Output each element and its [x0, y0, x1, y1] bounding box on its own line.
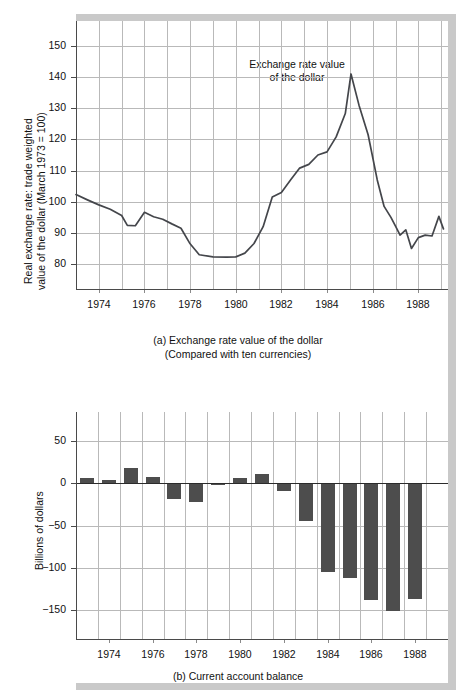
- bar-1982: [277, 483, 291, 491]
- y-tick-label: −150: [32, 604, 66, 615]
- bar-1986: [364, 483, 378, 600]
- y-tick-label: 0: [32, 477, 66, 488]
- bar-1975: [124, 468, 138, 483]
- bar-1977: [167, 483, 181, 498]
- gridline-vertical: [404, 412, 405, 639]
- gridline-vertical: [207, 412, 208, 639]
- gridline-vertical: [142, 412, 143, 639]
- x-axis-spine: [76, 639, 448, 640]
- gridline-vertical: [251, 412, 252, 639]
- y-axis-spine: [76, 412, 77, 639]
- gridline-vertical: [360, 412, 361, 639]
- panel-current-account-balance: Billions of dollars 500−50−100−150197419…: [0, 0, 476, 700]
- bar-1987: [386, 483, 400, 611]
- gridline-vertical: [317, 412, 318, 639]
- gridline-vertical: [339, 412, 340, 639]
- gridline-vertical: [382, 412, 383, 639]
- gridline-vertical: [273, 412, 274, 639]
- x-tick-label: 1982: [259, 649, 309, 660]
- gridline-vertical: [295, 412, 296, 639]
- gridline-vertical: [164, 412, 165, 639]
- x-tick-label: 1978: [171, 649, 221, 660]
- bar-1988: [408, 483, 422, 598]
- bar-1985: [343, 483, 357, 578]
- caption-b-text: (b) Current account balance: [0, 669, 476, 683]
- bar-1978: [189, 483, 203, 502]
- x-tick-label: 1974: [84, 649, 134, 660]
- x-tick-label: 1988: [390, 649, 440, 660]
- x-tick-label: 1980: [215, 649, 265, 660]
- gridline-vertical: [120, 412, 121, 639]
- gridline-horizontal: [76, 441, 448, 442]
- gridline-vertical: [426, 412, 427, 639]
- gridline-vertical: [185, 412, 186, 639]
- y-tick-label: −50: [32, 520, 66, 531]
- x-tick-label: 1986: [346, 649, 396, 660]
- gridline-vertical: [98, 412, 99, 639]
- zero-baseline: [76, 483, 448, 484]
- gridline-vertical: [229, 412, 230, 639]
- y-tick-label: −100: [32, 562, 66, 573]
- bar-1984: [321, 483, 335, 571]
- caption-panel-b: (b) Current account balance: [0, 669, 476, 683]
- figure-root: Real exchange rate: trade weighted value…: [0, 0, 476, 700]
- y-tick-label: 50: [32, 435, 66, 446]
- bar-1983: [299, 483, 313, 521]
